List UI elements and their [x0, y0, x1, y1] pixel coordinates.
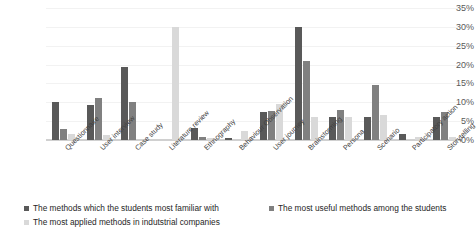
x-axis-labels: QuestionnaireUser interviewCase studyLit… — [46, 142, 462, 196]
bar[interactable] — [52, 102, 59, 140]
legend-swatch-icon — [24, 206, 29, 211]
y-axis-tick-label: 35% — [434, 4, 474, 13]
x-axis-label-cell: Questionnaire — [46, 142, 81, 196]
x-axis-label-cell: Behaviour Observation — [219, 142, 254, 196]
bar-group — [46, 8, 81, 140]
legend-item-1[interactable]: The most useful methods among the studen… — [269, 203, 446, 214]
legend-label: The most applied methods in indutstrial … — [33, 217, 220, 228]
legend-swatch-icon — [269, 206, 274, 211]
y-axis-tick-label: 25% — [434, 42, 474, 51]
y-axis-tick-label: 15% — [434, 79, 474, 88]
x-axis-label-cell: Scenario — [358, 142, 393, 196]
x-axis-label-cell: Storytelling — [427, 142, 462, 196]
bar[interactable] — [364, 117, 371, 140]
legend-item-2[interactable]: The most applied methods in indutstrial … — [24, 217, 269, 228]
x-axis-label-cell: Case study — [115, 142, 150, 196]
bar-group — [393, 8, 428, 140]
x-axis-label-cell: Brainstorming — [289, 142, 324, 196]
legend-label: The most useful methods among the studen… — [278, 203, 446, 214]
bar[interactable] — [303, 61, 310, 140]
bar-group — [289, 8, 324, 140]
x-axis-label-cell: Ethnography — [185, 142, 220, 196]
bar[interactable] — [225, 138, 232, 140]
bar[interactable] — [399, 134, 406, 140]
legend-label: The methods which the students most fami… — [33, 203, 219, 214]
legend-row-1: The methods which the students most fami… — [24, 203, 464, 214]
x-axis-label-cell: Persona — [323, 142, 358, 196]
legend-row-2: The most applied methods in indutstrial … — [24, 217, 464, 228]
y-axis-tick-label: 30% — [434, 23, 474, 32]
x-axis-label-cell: Participatory action — [393, 142, 428, 196]
plot-area — [46, 8, 462, 140]
bar[interactable] — [372, 85, 379, 140]
chart-legend: The methods which the students most fami… — [24, 203, 464, 231]
bar[interactable] — [199, 137, 206, 140]
x-axis-label-cell: Literature review — [150, 142, 185, 196]
bar-group — [219, 8, 254, 140]
bar-group — [150, 8, 185, 140]
x-axis-label-cell: User journey — [254, 142, 289, 196]
bar-groups — [46, 8, 462, 140]
x-axis-label-cell: User interview — [81, 142, 116, 196]
bar[interactable] — [60, 129, 67, 140]
y-axis-tick-label: 20% — [434, 61, 474, 70]
legend-swatch-icon — [24, 220, 29, 225]
bar-group — [358, 8, 393, 140]
legend-item-0[interactable]: The methods which the students most fami… — [24, 203, 269, 214]
bar[interactable] — [172, 27, 179, 140]
